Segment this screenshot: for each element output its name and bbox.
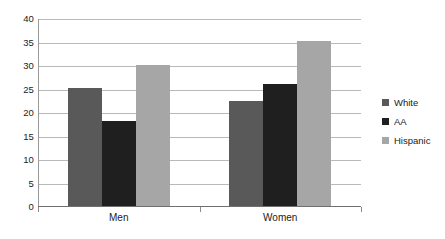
x-tick-mark — [361, 207, 362, 212]
bar — [136, 65, 170, 206]
y-tick-label: 10 — [0, 155, 34, 165]
bar — [263, 84, 297, 206]
x-axis-category-labels: MenWomen — [38, 212, 361, 234]
plot-area — [38, 19, 361, 207]
legend-swatch-icon — [382, 137, 389, 144]
bars-layer — [38, 19, 361, 207]
legend-swatch-icon — [382, 99, 389, 106]
bar-chart: 0510152025303540 MenWomen WhiteAAHispani… — [0, 0, 445, 239]
x-category-label: Women — [263, 212, 297, 223]
y-tick-label: 5 — [0, 179, 34, 189]
legend-label: AA — [394, 117, 407, 127]
y-tick-label: 25 — [0, 85, 34, 95]
legend-swatch-icon — [382, 118, 389, 125]
legend-item[interactable]: AA — [382, 112, 445, 131]
legend: WhiteAAHispanic — [382, 93, 445, 150]
bar — [297, 41, 331, 206]
y-tick-label: 20 — [0, 108, 34, 118]
y-tick-label: 35 — [0, 38, 34, 48]
y-tick-label: 40 — [0, 14, 34, 24]
bar — [229, 101, 263, 206]
y-tick-label: 30 — [0, 61, 34, 71]
y-tick-label: 0 — [0, 202, 34, 212]
y-axis: 0510152025303540 — [0, 0, 34, 239]
legend-label: White — [394, 98, 418, 108]
legend-item[interactable]: Hispanic — [382, 131, 445, 150]
bar — [68, 88, 102, 206]
legend-item[interactable]: White — [382, 93, 445, 112]
bar — [102, 121, 136, 206]
x-category-label: Men — [109, 212, 128, 223]
y-tick-label: 15 — [0, 132, 34, 142]
legend-label: Hispanic — [394, 136, 430, 146]
